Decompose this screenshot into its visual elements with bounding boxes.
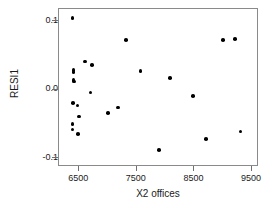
data-point (191, 94, 195, 98)
x-tick-mark (251, 166, 252, 171)
x-axis-title: X2 offices (58, 188, 258, 199)
data-point (77, 115, 81, 119)
x-tick-label: 6500 (58, 173, 98, 183)
data-point (157, 148, 161, 152)
data-point (83, 60, 87, 64)
y-tick-group: -0.1 (0, 153, 58, 162)
data-point (124, 38, 128, 42)
data-point (204, 137, 208, 141)
data-point (116, 106, 120, 110)
data-point (71, 16, 75, 20)
data-point (71, 101, 75, 105)
data-point (168, 76, 172, 80)
data-point (71, 128, 75, 132)
data-point (89, 91, 93, 95)
x-tick-label: 9500 (231, 173, 271, 183)
y-tick-group: 0.1 (0, 16, 58, 25)
data-point (76, 132, 80, 136)
data-point (71, 122, 75, 126)
x-tick-mark (136, 166, 137, 171)
data-point (106, 111, 110, 115)
data-point (221, 38, 225, 42)
x-tick-label: 8500 (173, 173, 213, 183)
data-point (239, 130, 243, 134)
x-tick-mark (78, 166, 79, 171)
x-tick-mark (193, 166, 194, 171)
plot-area (58, 8, 258, 166)
data-point (233, 37, 237, 41)
scatter-plot-screenshot: RESI1 0.10.0-0.1 6500750085009500 X2 off… (0, 0, 275, 208)
data-point (76, 104, 80, 108)
data-point (72, 70, 76, 74)
data-point (139, 69, 143, 73)
x-tick-label: 7500 (116, 173, 156, 183)
data-points-layer (59, 9, 257, 165)
data-point (72, 80, 76, 84)
data-point (90, 63, 94, 67)
y-tick-group: 0.0 (0, 84, 58, 93)
